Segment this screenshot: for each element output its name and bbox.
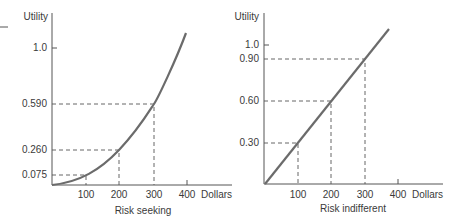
left-x-tick-label: 200: [111, 189, 128, 200]
left-y-axis-label: Utility: [24, 11, 48, 22]
chart-risk-indifferent: Utility 1.0 0.90 0.60 0.30 100 200 300 4…: [235, 11, 444, 214]
left-guide-300: [52, 104, 154, 185]
right-y-axis-label: Utility: [235, 11, 259, 22]
right-y-tick-label: 0.60: [240, 95, 260, 106]
right-x-tick-label: 300: [357, 189, 374, 200]
left-y-tick-label: 0.590: [22, 98, 47, 109]
left-x-tick-label: 100: [78, 189, 95, 200]
left-caption: Risk seeking: [115, 205, 172, 216]
left-y-tick-label: 0.075: [22, 169, 47, 180]
chart-risk-seeking: Utility 1.0 0.590 0.260 0.075 100 200 30…: [22, 11, 232, 216]
utility-curves-figure: Utility 1.0 0.590 0.260 0.075 100 200 30…: [0, 0, 458, 223]
left-x-tick-label: 300: [146, 189, 163, 200]
left-y-tick-label: 0.260: [22, 144, 47, 155]
left-x-tick-label: 400: [179, 189, 196, 200]
right-x-tick-label: 200: [323, 189, 340, 200]
right-y-tick-label: 0.30: [240, 137, 260, 148]
left-guide-200: [52, 150, 119, 185]
right-caption: Risk indifferent: [320, 203, 386, 214]
right-x-tick-label: 100: [290, 189, 307, 200]
right-utility-line: [265, 29, 389, 184]
left-x-axis-label: Dollars: [201, 189, 232, 200]
right-y-tick-label: 1.0: [245, 39, 259, 50]
right-x-tick-label: 400: [390, 189, 407, 200]
right-y-tick-label: 0.90: [240, 53, 260, 64]
left-y-tick-label: 1.0: [33, 42, 47, 53]
right-x-axis-label: Dollars: [412, 189, 443, 200]
